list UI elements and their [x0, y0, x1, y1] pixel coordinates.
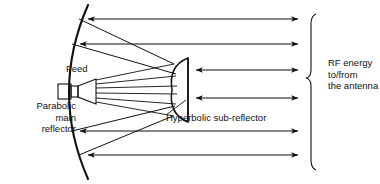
rf-energy-arrows	[80, 19, 298, 155]
hyperbolic-sub-reflector-label: Hyperbolic sub-reflector	[166, 112, 266, 124]
antenna-diagram	[0, 0, 380, 184]
rf-energy-label: RF energy to/from the antenna	[328, 57, 378, 92]
rf-energy-brace	[306, 14, 316, 170]
feed-label: Feed	[66, 63, 88, 75]
parabolic-main-reflector-label: Parabolic main reflector	[4, 100, 76, 135]
